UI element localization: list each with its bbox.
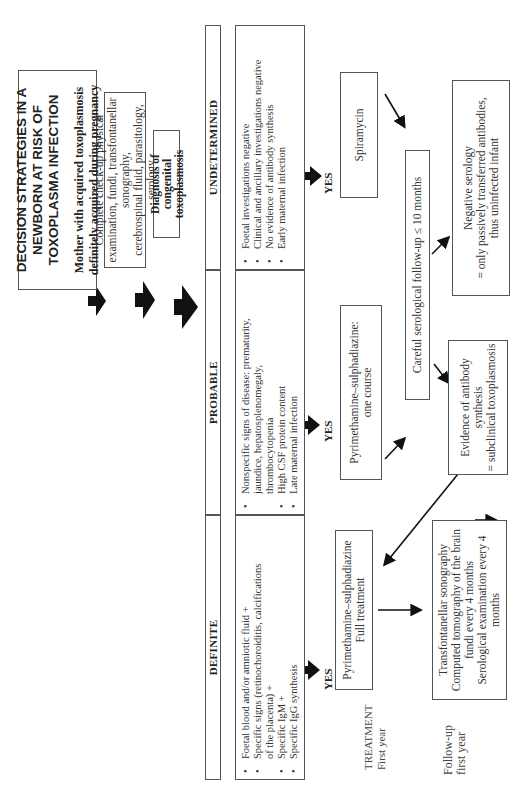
criterion: Foetal investigations negative	[240, 32, 252, 263]
diagram-title-line1: DECISION STRATEGIES IN A NEWBORN AT RISK…	[14, 71, 46, 289]
treatment-line1: Spiramycin	[353, 108, 366, 161]
criteria-box-undetermined: Foetal investigations negative Clinical …	[235, 25, 305, 270]
criterion: Early maternal infection	[276, 32, 288, 263]
treatment-box-full: Pyrimethamine–sulphadiazine Full treatme…	[335, 530, 373, 690]
evidence-box: Evidence of antibody synthesis = subclin…	[448, 340, 508, 475]
criterion: of the placenta) +	[264, 522, 276, 773]
category-header-probable: PROBABLE	[205, 270, 221, 515]
header-label: UNDETERMINED	[207, 100, 219, 195]
criterion: Specific IgM +	[276, 522, 288, 773]
yes-label-undetermined: YES	[322, 173, 334, 194]
criteria-box-probable: Nonspecific signs of disease: prematurit…	[235, 270, 305, 515]
checkup-line1: Complete check-up physical examination, …	[93, 93, 132, 267]
criterion: High CSF protein content	[276, 277, 288, 508]
side-label-line: first year	[455, 725, 468, 775]
negative-line3: thus uninfected infant	[488, 138, 501, 238]
side-label-line: First year	[375, 705, 388, 770]
followup-box: Transfontanellar sonography Computed tom…	[432, 520, 507, 700]
title-box: DECISION STRATEGIES IN A NEWBORN AT RISK…	[18, 70, 97, 290]
criterion: jaundice, hepatosplenomegaly,	[252, 277, 264, 508]
followup-item: Serological examination every 4 months	[476, 521, 502, 699]
negative-line1: Negative serology	[462, 146, 475, 230]
followup-serology-label: Careful serological follow-up ≤ 10 month…	[411, 177, 424, 373]
followup-item: Computed tomography of the brain	[450, 529, 463, 691]
treatment-line2: Full treatment	[354, 578, 367, 643]
followup-item: fundi every 4 months	[463, 561, 476, 659]
followup-item: Transfontanellar sonography	[437, 544, 450, 676]
category-header-definite: DEFINITE	[205, 515, 221, 780]
criteria-box-definite: Foetal blood and/or amniotic fluid + Spe…	[235, 515, 305, 780]
serological-followup-box: Careful serological follow-up ≤ 10 month…	[405, 150, 430, 400]
treatment-box-spiramycin: Spiramycin	[340, 72, 378, 198]
criterion: Clinical and ancillary investigations ne…	[252, 32, 264, 263]
checkup-box: Complete check-up physical examination, …	[104, 92, 146, 268]
criterion: thrombocytopenia	[264, 277, 276, 508]
criterion: Specific IgG synthesis	[288, 522, 300, 773]
diagram-title-line2: TOXOPLASMA INFECTION	[46, 95, 62, 266]
evidence-line1: Evidence of antibody synthesis	[459, 341, 485, 474]
yes-label-definite: YES	[322, 669, 334, 690]
treatment-box-one-course: Pyrimethamine–sulphadiazine: one course	[340, 305, 382, 480]
criterion: Late maternal infection	[288, 277, 300, 508]
side-label-followup: Follow-up first year	[442, 725, 468, 775]
criterion: Specific signs (retinochoroiditis, calci…	[252, 522, 264, 773]
yes-label-probable: YES	[322, 421, 334, 442]
negative-line2: = only passively transferred antibodies,	[475, 97, 488, 278]
evidence-line2: = subclinical toxoplasmosis	[485, 344, 498, 472]
criterion: Nonspecific signs of disease: prematurit…	[240, 277, 252, 508]
negative-serology-box: Negative serology = only passively trans…	[452, 80, 510, 296]
side-label-treatment: TREATMENT First year	[362, 705, 388, 770]
header-label: PROBABLE	[207, 361, 219, 424]
treatment-line1: Pyrimethamine–sulphadiazine	[341, 540, 354, 679]
criterion: No evidence of antibody synthesis	[264, 32, 276, 263]
category-header-undetermined: UNDETERMINED	[205, 25, 221, 270]
treatment-line2: one course	[361, 368, 374, 418]
side-label-line: TREATMENT	[362, 705, 375, 770]
diagram-canvas: DECISION STRATEGIES IN A NEWBORN AT RISK…	[0, 0, 528, 794]
diagnosis-box: Diagnosis of congenital toxoplasmosis	[153, 130, 180, 238]
treatment-line1: Pyrimethamine–sulphadiazine:	[348, 321, 361, 463]
diagnosis-label: Diagnosis of congenital toxoplasmosis	[149, 131, 185, 237]
header-label: DEFINITE	[207, 620, 219, 676]
criterion: Foetal blood and/or amniotic fluid +	[240, 522, 252, 773]
